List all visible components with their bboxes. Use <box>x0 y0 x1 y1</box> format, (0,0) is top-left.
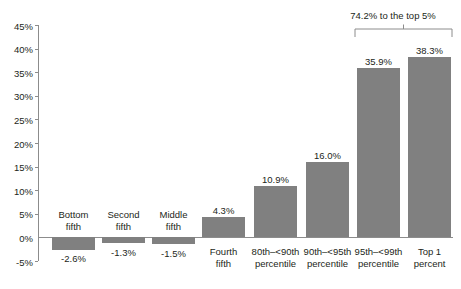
y-axis-line <box>38 25 39 261</box>
category-label-middle-fifth: Middle fifth <box>143 209 204 232</box>
category-label-top-1-percent: Top 1 percent <box>399 246 460 269</box>
bar-chart: 45% 40% 35% 30% 25% 20% 15% 10% 5% 0% -5… <box>0 0 461 289</box>
value-label: -1.3% <box>98 247 149 258</box>
category-label-line: Top 1 <box>399 246 460 258</box>
value-label: 10.9% <box>250 174 301 185</box>
bar-top-1-percent[interactable] <box>408 57 451 238</box>
annotation-label-top-5-percent: 74.2% to the top 5% <box>328 10 458 21</box>
bar-middle-fifth[interactable] <box>152 237 195 244</box>
bar-second-fifth[interactable] <box>102 237 145 243</box>
y-tick-label: 45% <box>2 21 33 32</box>
category-label-line: fifth <box>143 221 204 233</box>
bar-bottom-fifth[interactable] <box>52 237 95 249</box>
bar-90th-95th[interactable] <box>306 162 349 238</box>
y-tick-label: 15% <box>2 162 33 173</box>
value-label: 4.3% <box>198 205 249 216</box>
value-label: -2.6% <box>48 253 99 264</box>
bar-80th-90th[interactable] <box>254 186 297 238</box>
y-tick-label: 30% <box>2 91 33 102</box>
category-label-line: Middle <box>143 209 204 221</box>
y-tick-label: 0% <box>2 233 33 244</box>
zero-baseline <box>38 237 453 238</box>
annotation-bracket <box>348 24 458 38</box>
y-tick-label: 35% <box>2 68 33 79</box>
value-label: 38.3% <box>404 45 455 56</box>
y-tick-label: 5% <box>2 209 33 220</box>
category-label-line: percent <box>399 258 460 270</box>
bar-fourth-fifth[interactable] <box>202 217 245 237</box>
y-tick-label: 10% <box>2 186 33 197</box>
y-tick-label: 40% <box>2 44 33 55</box>
y-tick-label: -5% <box>2 257 33 268</box>
value-label: 35.9% <box>353 56 404 67</box>
value-label: -1.5% <box>148 248 199 259</box>
y-tick-label: 20% <box>2 139 33 150</box>
bar-95th-99th[interactable] <box>357 68 400 237</box>
value-label: 16.0% <box>302 150 353 161</box>
y-tick-label: 25% <box>2 115 33 126</box>
